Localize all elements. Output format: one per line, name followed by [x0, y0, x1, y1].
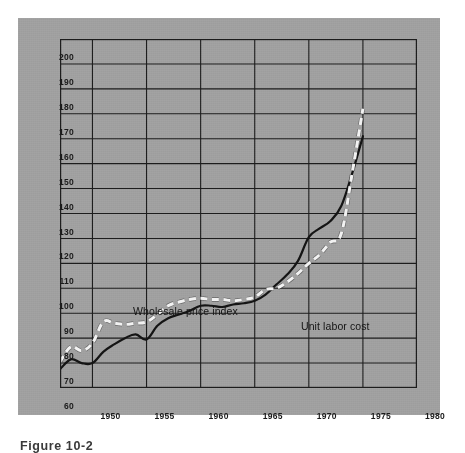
y-tick-label-180: 180 [48, 103, 74, 112]
x-tick-label-1960: 1960 [209, 412, 229, 421]
x-tick-label-1955: 1955 [154, 412, 174, 421]
x-tick-label-1950: 1950 [100, 412, 120, 421]
plot-area [60, 39, 417, 388]
y-tick-label-60: 60 [48, 402, 74, 411]
x-tick-label-1975: 1975 [371, 412, 391, 421]
series-line-unit-labor-cost [60, 136, 363, 369]
y-tick-label-200: 200 [48, 53, 74, 62]
figure-caption: Figure 10-2 [20, 440, 93, 453]
y-tick-label-110: 110 [48, 277, 74, 286]
y-tick-label-120: 120 [48, 252, 74, 261]
y-axis-tick-labels: 6070809010011012013014015016017018019020… [26, 57, 74, 406]
series-label-wholesale-price-index: Wholesale price index [133, 306, 238, 317]
x-tick-label-1965: 1965 [263, 412, 283, 421]
y-tick-label-140: 140 [48, 202, 74, 211]
y-tick-label-160: 160 [48, 152, 74, 161]
figure-panel: Wholesale price index Unit labor cost 60… [18, 18, 440, 415]
y-tick-label-100: 100 [48, 302, 74, 311]
y-tick-label-170: 170 [48, 128, 74, 137]
y-tick-label-190: 190 [48, 78, 74, 87]
chart-canvas [60, 39, 417, 388]
x-tick-label-1970: 1970 [317, 412, 337, 421]
y-tick-label-70: 70 [48, 377, 74, 386]
x-axis-tick-labels: 1950195519601965197019751980 [78, 412, 435, 426]
y-tick-label-130: 130 [48, 227, 74, 236]
series-label-unit-labor-cost: Unit labor cost [301, 321, 370, 332]
y-tick-label-80: 80 [48, 352, 74, 361]
y-tick-label-90: 90 [48, 327, 74, 336]
y-tick-label-150: 150 [48, 177, 74, 186]
x-tick-label-1980: 1980 [425, 412, 445, 421]
